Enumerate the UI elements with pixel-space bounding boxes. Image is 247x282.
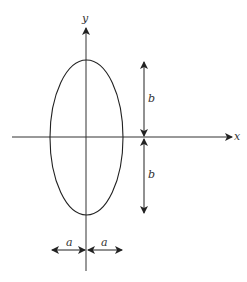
b-label-top: b	[148, 92, 155, 105]
a-label-right: a	[101, 236, 108, 249]
y-axis-label: y	[81, 12, 89, 25]
x-axis-label: x	[234, 130, 241, 143]
ellipse-diagram: x y b b a a	[0, 0, 247, 282]
b-label-bottom: b	[148, 168, 155, 181]
a-label-left: a	[66, 236, 73, 249]
